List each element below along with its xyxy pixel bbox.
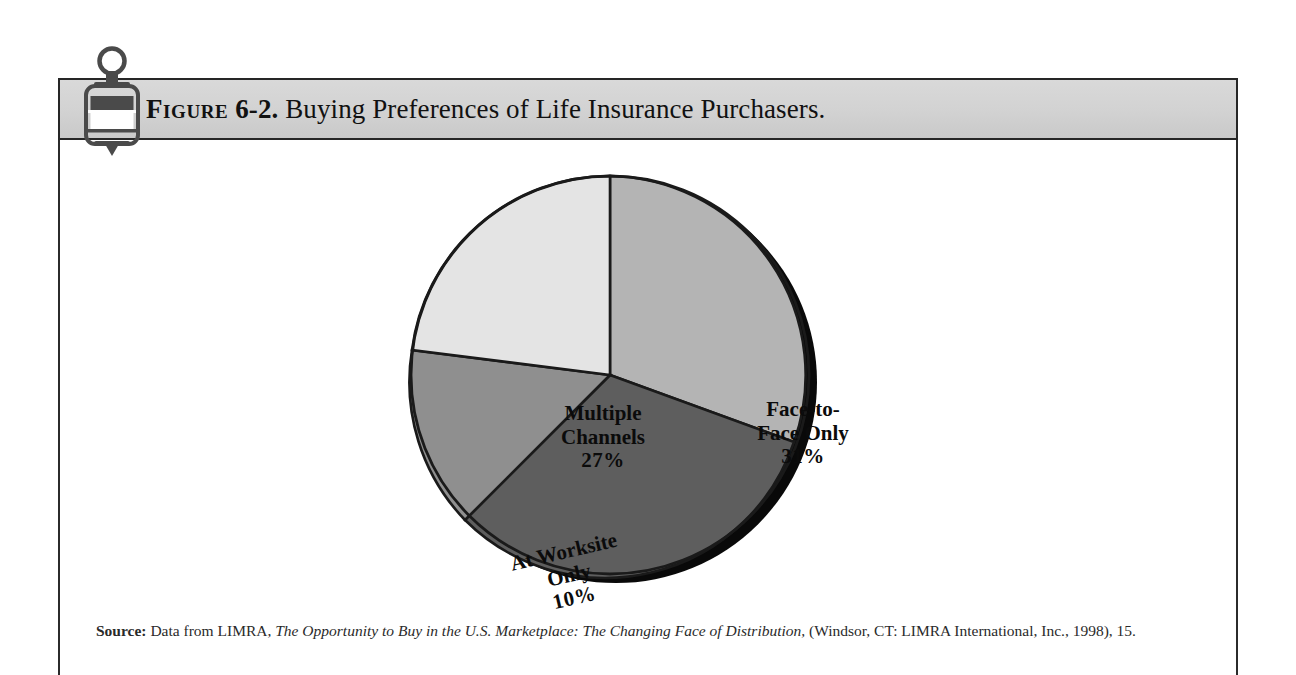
figure-title-banner: Figure 6-2. Buying Preferences of Life I… — [58, 78, 1238, 140]
source-publication-title: The Opportunity to Buy in the U.S. Marke… — [275, 622, 805, 639]
source-text-before: Data from LIMRA, — [150, 622, 271, 639]
source-label: Source: — [96, 622, 147, 639]
source-note: Source: Data from LIMRA, The Opportunity… — [96, 620, 1226, 642]
figure-label-word: Figure — [146, 94, 228, 124]
pie-slice-multiple-channels — [412, 176, 610, 375]
source-text-after: (Windsor, CT: LIMRA International, Inc.,… — [809, 622, 1136, 639]
pie-chart-svg — [58, 140, 1238, 610]
figure-number: 6-2. — [235, 94, 278, 124]
pie-chart: Multiple Channels 27% Face-to- Face Only… — [58, 140, 1238, 610]
figure-frame: Figure 6-2. Buying Preferences of Life I… — [0, 0, 1296, 675]
figure-caption: Figure 6-2. Buying Preferences of Life I… — [146, 94, 825, 125]
figure-title: Buying Preferences of Life Insurance Pur… — [285, 94, 825, 124]
